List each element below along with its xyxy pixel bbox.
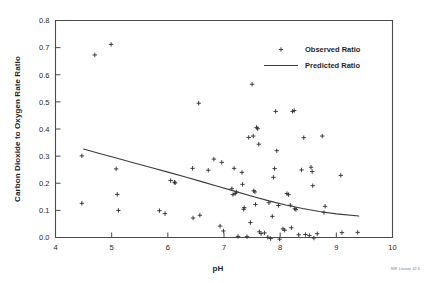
x-tick-label: 6 <box>166 243 170 252</box>
x-tick-label: 8 <box>278 243 282 252</box>
figure-background <box>0 0 429 283</box>
figure-credit: NIR Lesson 42.6 <box>391 267 420 271</box>
scatter-plot: 0.00.10.20.30.40.50.60.70.8 45678910 Car… <box>0 0 429 283</box>
y-tick-label: 0.2 <box>39 179 49 188</box>
x-tick-label: 7 <box>222 243 226 252</box>
x-tick-label: 4 <box>53 243 57 252</box>
y-tick-label: 0.5 <box>39 98 49 107</box>
y-tick-label: 0.8 <box>39 16 49 25</box>
legend-label-observed: Observed Ratio <box>305 45 361 54</box>
chart-figure: 0.00.10.20.30.40.50.60.70.8 45678910 Car… <box>0 0 429 283</box>
x-tick-label: 9 <box>334 243 338 252</box>
y-tick-label: 0.1 <box>39 206 49 215</box>
x-tick-label: 10 <box>388 243 396 252</box>
y-tick-label: 0.3 <box>39 152 49 161</box>
y-tick-label: 0.4 <box>39 125 49 134</box>
legend-label-predicted: Predicted Ratio <box>305 61 360 70</box>
y-tick-label: 0.6 <box>39 71 49 80</box>
x-axis-title: pH <box>213 264 224 273</box>
y-tick-label: 0.0 <box>39 233 49 242</box>
y-axis-tick-labels: 0.00.10.20.30.40.50.60.70.8 <box>39 16 49 242</box>
y-axis-title: Carbon Dioxide to Oxygen Rate Ratio <box>13 56 22 202</box>
x-tick-label: 5 <box>110 243 114 252</box>
y-tick-label: 0.7 <box>39 43 49 52</box>
